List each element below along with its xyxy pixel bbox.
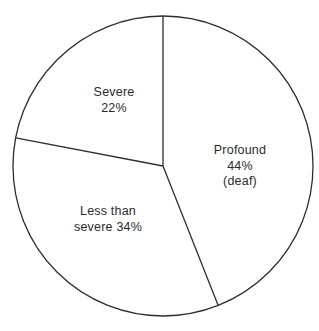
slice-label-severe-pct: 22% (74, 101, 154, 117)
slice-label-severe-name: Severe (74, 85, 154, 101)
slice-label-profound-note: (deaf) (195, 174, 285, 190)
slice-label-profound: Profound 44% (deaf) (195, 143, 285, 190)
pie-chart-figure: Severe 22% Profound 44% (deaf) Less than… (0, 0, 319, 331)
slice-label-profound-name: Profound (195, 143, 285, 159)
slice-label-less-than-severe: Less than severe 34% (58, 204, 158, 235)
slice-label-less-name: Less than (58, 204, 158, 220)
slice-label-less-pct: severe 34% (58, 220, 158, 236)
slice-label-severe: Severe 22% (74, 85, 154, 116)
slice-label-profound-pct: 44% (195, 159, 285, 175)
